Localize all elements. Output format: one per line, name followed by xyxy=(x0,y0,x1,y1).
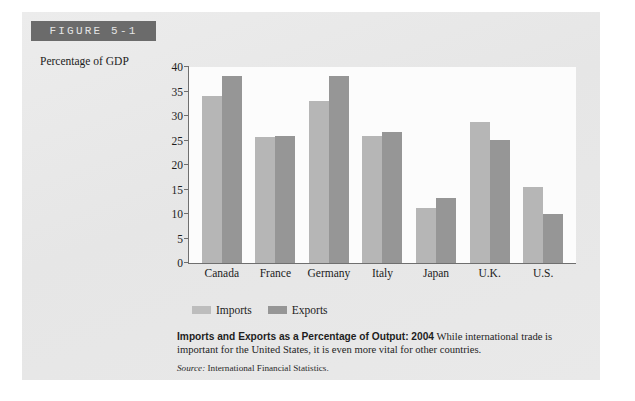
bar-group: U.S. xyxy=(523,67,563,263)
bar-exports-france xyxy=(275,136,295,263)
bar-exports-us xyxy=(543,214,563,263)
legend-swatch-icon xyxy=(192,306,211,314)
bar-group: Japan xyxy=(416,67,456,263)
bar-imports-uk xyxy=(470,122,490,263)
y-axis-tick-label: 40 xyxy=(172,61,184,73)
bar-imports-germany xyxy=(309,101,329,263)
bar-group: Canada xyxy=(202,67,242,263)
x-axis-category-label: Canada xyxy=(205,267,239,279)
legend-item-exports: Exports xyxy=(268,304,328,316)
y-axis-tick-label: 0 xyxy=(177,257,183,269)
bar-exports-italy xyxy=(382,132,402,263)
y-axis-tick-label: 5 xyxy=(177,233,183,245)
legend-swatch-icon xyxy=(268,306,287,314)
bar-imports-canada xyxy=(202,96,222,263)
caption-bold-lead: Imports and Exports as a Percentage of O… xyxy=(177,331,434,342)
bar-exports-germany xyxy=(329,76,349,263)
y-axis-tick-label: 20 xyxy=(172,159,184,171)
y-axis-tick-label: 35 xyxy=(172,86,184,98)
y-axis-tick-label: 15 xyxy=(172,184,184,196)
source-label: Source: xyxy=(177,363,205,373)
x-axis-category-label: U.K. xyxy=(478,267,500,279)
plot-area: 0510152025303540 CanadaFranceGermanyItal… xyxy=(188,67,576,264)
figure-number-label: FIGURE 5-1 xyxy=(49,25,137,37)
bar-groups: CanadaFranceGermanyItalyJapanU.K.U.S. xyxy=(189,67,576,263)
bar-imports-japan xyxy=(416,208,436,263)
caption-text: Imports and Exports as a Percentage of O… xyxy=(177,330,587,356)
bar-group: Germany xyxy=(309,67,349,263)
x-axis-category-label: Germany xyxy=(308,267,351,279)
legend-item-imports: Imports xyxy=(192,304,252,316)
bar-exports-canada xyxy=(222,76,242,263)
y-axis-tick-label: 30 xyxy=(172,110,184,122)
legend-label: Imports xyxy=(216,304,252,316)
bar-imports-france xyxy=(255,137,275,263)
chart-legend: ImportsExports xyxy=(192,304,328,316)
figure-number-banner: FIGURE 5-1 xyxy=(31,21,156,41)
bar-imports-italy xyxy=(362,136,382,263)
chart-plot-panel: Percentage of GDP 0510152025303540 Canad… xyxy=(156,52,576,286)
bar-imports-us xyxy=(523,187,543,263)
x-axis-category-label: Japan xyxy=(423,267,449,279)
x-axis-category-label: France xyxy=(260,267,291,279)
y-axis-title: Percentage of GDP xyxy=(40,55,129,67)
x-axis-category-label: U.S. xyxy=(533,267,553,279)
source-value: International Financial Statistics. xyxy=(208,363,329,373)
x-axis-category-label: Italy xyxy=(372,267,393,279)
bar-group: U.K. xyxy=(470,67,510,263)
bar-group: Italy xyxy=(362,67,402,263)
bar-group: France xyxy=(255,67,295,263)
legend-label: Exports xyxy=(292,304,328,316)
y-axis-tick-label: 25 xyxy=(172,135,184,147)
bar-exports-uk xyxy=(490,140,510,263)
caption-block: Imports and Exports as a Percentage of O… xyxy=(177,330,587,373)
bar-exports-japan xyxy=(436,198,456,263)
figure-card: The Open Economy sections FIGURE 5-1 Per… xyxy=(22,12,600,380)
source-line: Source: International Financial Statisti… xyxy=(177,363,587,373)
y-axis-tick-label: 10 xyxy=(172,208,184,220)
